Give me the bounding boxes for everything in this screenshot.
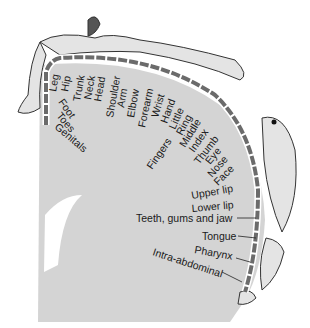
homunculus-svg: Leg Hip Trunk Neck Head Shoulder Arm Elb…: [0, 0, 310, 328]
label-tongue: Tongue: [202, 230, 237, 242]
homunculus-diagram: Leg Hip Trunk Neck Head Shoulder Arm Elb…: [0, 0, 310, 328]
label-teeth-gums-jaw: Teeth, gums and jaw: [136, 212, 233, 224]
